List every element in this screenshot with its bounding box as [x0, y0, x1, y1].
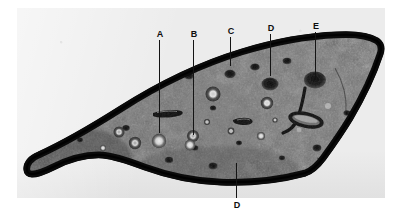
label-b: B — [189, 30, 199, 39]
printed-plate — [17, 8, 385, 198]
leader-line-c — [230, 37, 231, 66]
label-d-top: D — [266, 24, 276, 33]
label-c: C — [226, 27, 236, 36]
leader-line-a — [159, 40, 160, 133]
leader-line-d-bottom — [236, 163, 237, 198]
leader-line-e — [315, 32, 316, 80]
leader-line-b — [193, 40, 194, 135]
label-e: E — [311, 22, 321, 31]
label-a: A — [155, 30, 165, 39]
specimen-cross-section — [17, 8, 385, 198]
label-d-bottom: D — [232, 201, 242, 210]
micrograph-figure: A B C D E D — [0, 0, 397, 223]
leader-line-d-top — [270, 34, 271, 76]
